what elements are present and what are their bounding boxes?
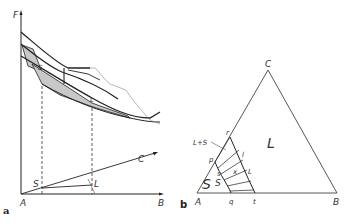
point-label-q: q: [229, 198, 234, 206]
surface-label-s: S: [38, 64, 43, 72]
tie-label-s-small: s: [217, 170, 221, 178]
point-label-p: p: [208, 156, 214, 164]
point-label-l: L: [94, 179, 99, 189]
tie-label-l-large: L: [248, 168, 252, 176]
tie-line-2: [218, 150, 239, 168]
panel-label-a: a: [3, 205, 10, 216]
phase-diagram-figure: S L F A B C S L a C A B: [0, 0, 349, 224]
surface-label-l: L: [90, 96, 94, 104]
vertex-label-b: B: [333, 197, 339, 207]
vertex-label-a: A: [194, 197, 201, 207]
mid-surface-ridge: [68, 70, 100, 80]
point-label-r: r: [226, 129, 230, 137]
region-label-two-phase: L+S: [193, 139, 208, 147]
tie-label-l-small: l: [242, 151, 244, 159]
point-label-s: S: [33, 179, 39, 189]
c-axis-arrow-icon: [153, 152, 158, 156]
c-axis: [21, 153, 155, 194]
vertex-label-c: C: [265, 59, 272, 69]
b-axis-arrow-icon: [159, 193, 164, 196]
panel-a: S L F A B C S L a: [3, 10, 164, 216]
tie-line-6: [230, 190, 254, 191]
point-label-x: x: [232, 168, 238, 176]
region-label-l: L: [267, 135, 275, 151]
axis-label-f: F: [13, 10, 19, 20]
axis-label-c: C: [138, 154, 145, 164]
panel-label-b: b: [180, 199, 187, 210]
tie-line-1: [215, 137, 230, 162]
axis-label-a: A: [19, 198, 26, 208]
panel-b: C A B L S L+S r p q t x s S l L b: [180, 59, 339, 210]
axis-label-b: B: [158, 198, 164, 208]
tie-line-3: [221, 160, 243, 174]
f-axis-arrow-icon: [20, 10, 23, 15]
tie-line-5: [227, 181, 251, 186]
region-label-s: S: [202, 176, 211, 192]
point-label-t: t: [253, 198, 256, 206]
tie-label-s-large: S: [215, 178, 221, 188]
